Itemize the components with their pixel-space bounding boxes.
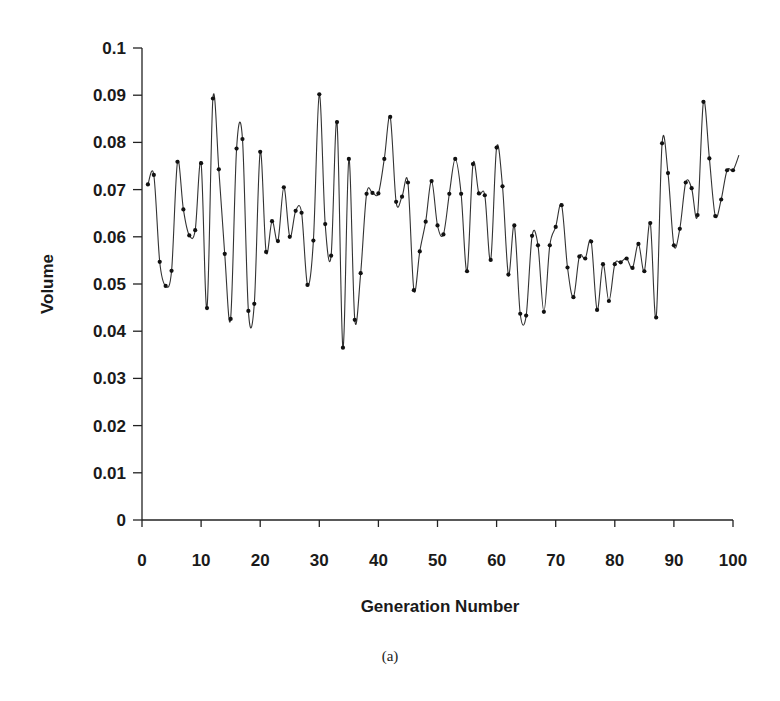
data-point (311, 238, 315, 242)
data-point (453, 157, 457, 161)
data-point (258, 150, 262, 154)
data-point (424, 220, 428, 224)
data-point (223, 252, 227, 256)
data-point (625, 256, 629, 260)
data-point (400, 195, 404, 199)
data-point (412, 288, 416, 292)
data-point (317, 92, 321, 96)
x-axis-title: Generation Number (361, 597, 520, 616)
data-point (524, 314, 528, 318)
line-chart: 00.010.020.030.040.050.060.070.080.090.1… (0, 0, 780, 701)
data-point (471, 162, 475, 166)
y-tick-label: 0.04 (93, 322, 127, 341)
data-point (217, 167, 221, 171)
x-tick-label: 40 (369, 551, 388, 570)
data-point (707, 156, 711, 160)
data-point (382, 157, 386, 161)
y-tick-label: 0.06 (93, 228, 126, 247)
data-point (489, 258, 493, 262)
data-point (666, 171, 670, 175)
data-point (276, 239, 280, 243)
data-point (565, 265, 569, 269)
x-axis: 0102030405060708090100 (137, 520, 747, 570)
data-point (695, 213, 699, 217)
data-point (169, 269, 173, 273)
data-point (601, 262, 605, 266)
y-tick-label: 0.01 (93, 464, 126, 483)
data-point (654, 315, 658, 319)
y-tick-label: 0.05 (93, 275, 126, 294)
data-point (282, 185, 286, 189)
data-point (536, 243, 540, 247)
x-tick-label: 50 (428, 551, 447, 570)
data-point (305, 283, 309, 287)
data-point (642, 269, 646, 273)
y-tick-label: 0.02 (93, 417, 126, 436)
data-point (512, 223, 516, 227)
data-point (353, 318, 357, 322)
y-tick-label: 0.08 (93, 133, 126, 152)
data-point (713, 214, 717, 218)
data-point (229, 317, 233, 321)
data-point (684, 180, 688, 184)
data-point (459, 192, 463, 196)
data-point (589, 239, 593, 243)
data-point (577, 255, 581, 259)
data-point (164, 284, 168, 288)
data-point (619, 260, 623, 264)
data-point (152, 173, 156, 177)
x-tick-label: 60 (487, 551, 506, 570)
data-point (542, 310, 546, 314)
data-point (406, 180, 410, 184)
x-tick-label: 20 (251, 551, 270, 570)
data-point (554, 225, 558, 229)
data-point (719, 197, 723, 201)
data-point (234, 146, 238, 150)
data-point (429, 179, 433, 183)
data-point (731, 168, 735, 172)
data-point (270, 219, 274, 223)
x-tick-label: 80 (605, 551, 624, 570)
data-point (500, 184, 504, 188)
data-point (175, 160, 179, 164)
data-point (441, 232, 445, 236)
data-point (199, 161, 203, 165)
data-point (607, 299, 611, 303)
y-tick-label: 0.1 (102, 39, 126, 58)
data-point (246, 309, 250, 313)
data-point (701, 100, 705, 104)
y-tick-label: 0 (117, 511, 126, 530)
data-point (158, 260, 162, 264)
y-tick-label: 0.09 (93, 86, 126, 105)
data-point (477, 191, 481, 195)
data-point (205, 306, 209, 310)
data-point (678, 227, 682, 231)
data-point (560, 203, 564, 207)
data-point (329, 254, 333, 258)
data-point (299, 211, 303, 215)
data-point (364, 192, 368, 196)
data-point (211, 96, 215, 100)
data-point (341, 346, 345, 350)
data-point (613, 262, 617, 266)
data-point (193, 228, 197, 232)
data-point (672, 243, 676, 247)
x-tick-label: 10 (192, 551, 211, 570)
data-point (518, 312, 522, 316)
data-point (288, 235, 292, 239)
data-point (506, 272, 510, 276)
data-point (530, 234, 534, 238)
data-point (181, 207, 185, 211)
data-point (388, 115, 392, 119)
data-point (187, 233, 191, 237)
data-point (394, 200, 398, 204)
y-tick-label: 0.03 (93, 369, 126, 388)
volume-series-line (148, 94, 739, 348)
data-point (548, 243, 552, 247)
data-point (483, 193, 487, 197)
data-point (323, 222, 327, 226)
data-point (725, 168, 729, 172)
data-point (418, 249, 422, 253)
data-point (146, 182, 150, 186)
data-point (630, 266, 634, 270)
